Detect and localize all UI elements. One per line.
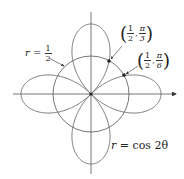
circle-eq-lhs: r xyxy=(25,47,30,58)
r-fraction: 1 2 xyxy=(144,51,151,70)
r-fraction: 1 2 xyxy=(127,24,134,43)
theta-fraction: π 6 xyxy=(156,51,163,70)
rose-equation-label: r = cos 2θ xyxy=(111,140,168,151)
point-pi-over-6 xyxy=(122,73,126,77)
diagram-canvas xyxy=(0,0,184,179)
theta-fraction: π 3 xyxy=(139,24,146,43)
polar-diagram: r = 1 2 ( 1 2 , π 3 ) ( 1 2 , π 6 ) xyxy=(0,0,184,179)
origin-point xyxy=(89,92,92,95)
fraction-one-half: 1 2 xyxy=(45,44,52,63)
arrow-point-pi-over-3 xyxy=(111,46,122,59)
rose-eq-rhs: cos 2θ xyxy=(132,139,168,152)
point-label-pi-over-3: ( 1 2 , π 3 ) xyxy=(120,24,153,43)
circle-equation-label: r = 1 2 xyxy=(25,44,52,63)
point-label-pi-over-6: ( 1 2 , π 6 ) xyxy=(137,51,170,70)
point-pi-over-3 xyxy=(107,59,111,63)
equals-sign: = xyxy=(33,47,41,58)
